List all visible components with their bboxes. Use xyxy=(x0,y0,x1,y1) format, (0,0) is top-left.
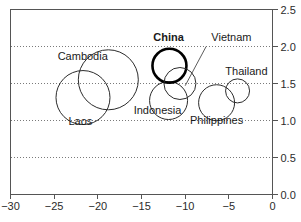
x-tick-label: −5 xyxy=(223,200,236,212)
bubble-label-philippines: Philippines xyxy=(190,114,244,126)
bubble-label-vietnam: Vietnam xyxy=(211,31,251,43)
chart-canvas: −30−25−20−15−10−50 0.00.51.01.52.02.5 Ca… xyxy=(0,0,301,222)
y-tick-label: 2.0 xyxy=(281,41,296,53)
y-tick-label: 2.5 xyxy=(281,4,296,16)
y-tick-label: 1.0 xyxy=(281,115,296,127)
y-tick-label: 0.0 xyxy=(281,189,296,201)
bubble-label-indonesia: Indonesia xyxy=(134,104,183,116)
bubble-label-china: China xyxy=(153,31,184,43)
bubble-thailand[interactable] xyxy=(226,79,250,103)
x-axis-tick-labels: −30−25−20−15−10−50 xyxy=(1,200,275,212)
x-tick-label: −10 xyxy=(176,200,195,212)
y-axis-tick-labels: 0.00.51.01.52.02.5 xyxy=(281,4,296,201)
x-tick-label: −25 xyxy=(45,200,64,212)
bubble-label-laos: Laos xyxy=(68,115,92,127)
x-tick-label: −20 xyxy=(88,200,107,212)
bubble-china[interactable] xyxy=(152,49,186,83)
y-tick-label: 0.5 xyxy=(281,152,296,164)
x-tick-label: 0 xyxy=(269,200,275,212)
bubble-label-cambodia: Cambodia xyxy=(58,50,109,62)
bubble-label-thailand: Thailand xyxy=(225,65,267,77)
y-tick-label: 1.5 xyxy=(281,78,296,90)
x-tick-label: −15 xyxy=(132,200,151,212)
bubble-chart: −30−25−20−15−10−50 0.00.51.01.52.02.5 Ca… xyxy=(0,0,301,222)
x-tick-label: −30 xyxy=(1,200,20,212)
